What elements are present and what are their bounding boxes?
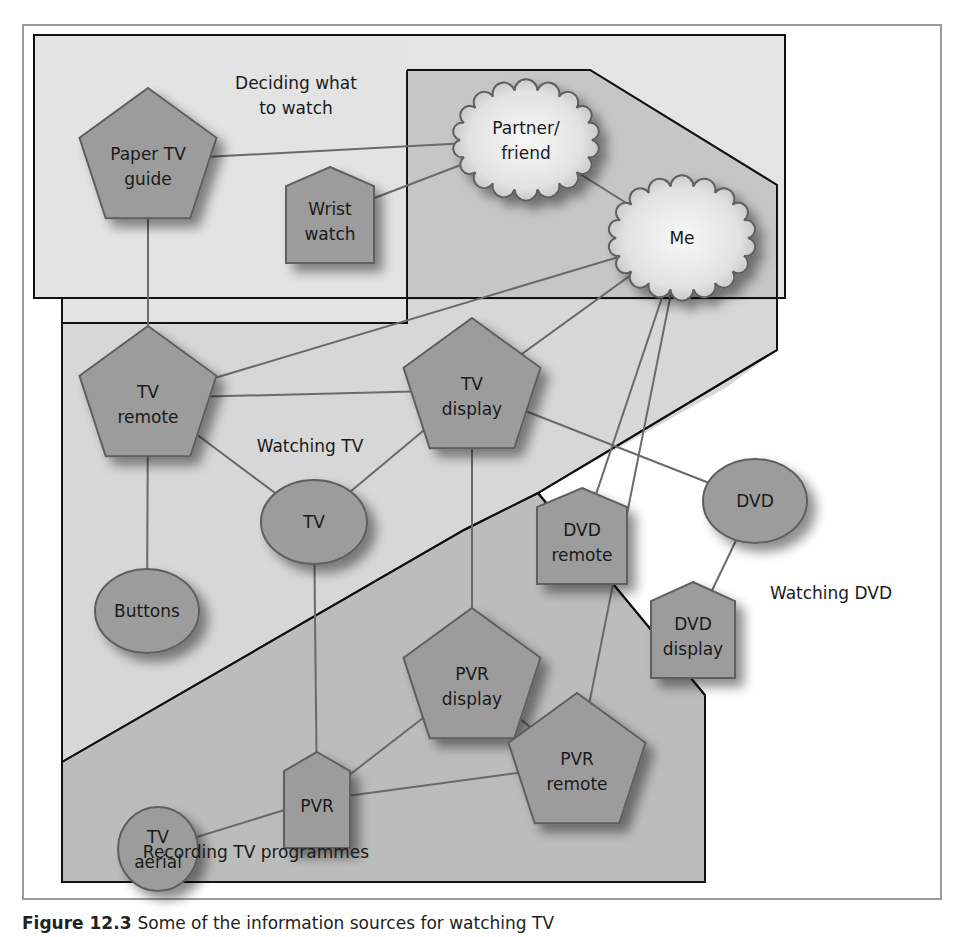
node-label: Wrist: [308, 199, 352, 219]
node-label: guide: [124, 169, 172, 189]
diagram-canvas: Paper TVguideWristwatchPartner/friendMeT…: [0, 0, 964, 937]
node-label: DVD: [736, 491, 774, 511]
node-label: watch: [304, 224, 355, 244]
node-buttons: Buttons: [95, 569, 199, 653]
figure-caption-number: Figure 12.3: [22, 913, 132, 933]
node-dvd-remote: DVDremote: [537, 488, 627, 584]
node-label: display: [442, 689, 502, 709]
node-label: remote: [117, 407, 178, 427]
node-label: remote: [546, 774, 607, 794]
node-label: Buttons: [114, 601, 180, 621]
node-label: display: [442, 399, 502, 419]
node-label: DVD: [563, 520, 601, 540]
node-label: TV: [460, 374, 483, 394]
region-label-watching-dvd: Watching DVD: [770, 583, 892, 603]
node-label: TV: [302, 512, 325, 532]
node-label: PVR: [560, 749, 594, 769]
node-partner-friend: Partner/friend: [453, 79, 599, 200]
node-label: TV: [136, 382, 159, 402]
region-label-deciding: Deciding what: [235, 73, 357, 93]
region-label-recording: Recording TV programmes: [143, 842, 369, 862]
node-label: remote: [551, 545, 612, 565]
node-label: DVD: [674, 614, 712, 634]
node-label: Me: [669, 228, 694, 248]
node-label: PVR: [300, 796, 334, 816]
node-label: display: [663, 639, 723, 659]
node-label: Paper TV: [110, 144, 186, 164]
node-wrist-watch: Wristwatch: [286, 167, 374, 263]
region-label-watching-tv: Watching TV: [257, 436, 364, 456]
node-pvr: PVR: [284, 752, 350, 848]
node-dvd: DVD: [703, 459, 807, 543]
figure-stage: Paper TVguideWristwatchPartner/friendMeT…: [0, 0, 964, 937]
cloud-shape: [453, 79, 599, 200]
node-label: PVR: [455, 664, 489, 684]
node-me: Me: [609, 175, 755, 300]
node-dvd-display: DVDdisplay: [651, 582, 735, 678]
figure-caption-text: Some of the information sources for watc…: [138, 913, 555, 933]
node-label: friend: [501, 143, 551, 163]
figure-caption: Figure 12.3Some of the information sourc…: [22, 913, 554, 933]
node-tv: TV: [261, 480, 367, 564]
region-label-deciding-2: to watch: [259, 98, 333, 118]
node-label: Partner/: [492, 118, 560, 138]
